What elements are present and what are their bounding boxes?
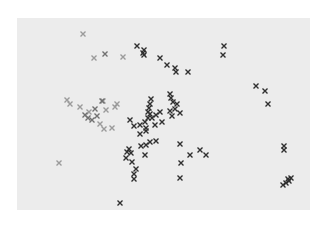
x-marker-icon xyxy=(185,69,191,75)
x-marker-icon xyxy=(159,119,165,125)
x-marker-icon xyxy=(281,147,287,153)
x-marker-icon xyxy=(157,55,163,61)
x-marker-icon xyxy=(91,55,97,61)
x-marker-icon xyxy=(137,131,143,137)
x-marker-icon xyxy=(253,83,259,89)
x-marker-icon xyxy=(131,176,137,182)
x-marker-icon xyxy=(157,109,163,115)
x-marker-icon xyxy=(177,110,183,116)
x-marker-icon xyxy=(143,142,149,148)
x-marker-icon xyxy=(187,152,193,158)
x-marker-icon xyxy=(56,160,62,166)
x-marker-icon xyxy=(80,31,86,37)
x-marker-icon xyxy=(285,176,291,182)
x-marker-icon xyxy=(103,107,109,113)
x-marker-icon xyxy=(169,113,175,119)
x-marker-icon xyxy=(109,125,115,131)
x-marker-icon xyxy=(153,138,159,144)
x-marker-icon xyxy=(220,52,226,58)
x-marker-icon xyxy=(137,122,143,128)
x-marker-icon xyxy=(127,117,133,123)
x-marker-icon xyxy=(120,54,126,60)
x-marker-icon xyxy=(129,159,135,165)
x-marker-icon xyxy=(265,101,271,107)
x-marker-icon xyxy=(114,101,120,107)
x-marker-icon xyxy=(117,200,123,206)
x-marker-icon xyxy=(262,88,268,94)
x-marker-icon xyxy=(203,152,209,158)
x-marker-icon xyxy=(102,51,108,57)
x-marker-icon xyxy=(94,113,100,119)
x-marker-icon xyxy=(141,52,147,58)
x-marker-icon xyxy=(221,43,227,49)
x-marker-icon xyxy=(164,62,170,68)
x-marker-icon xyxy=(142,152,148,158)
x-marker-icon xyxy=(143,128,149,134)
x-marker-icon xyxy=(177,175,183,181)
x-marker-icon xyxy=(101,126,107,132)
x-marker-icon xyxy=(99,98,105,104)
x-marker-icon xyxy=(177,141,183,147)
x-marker-icon xyxy=(77,104,83,110)
x-marker-icon xyxy=(173,69,179,75)
x-marker-icon xyxy=(92,106,98,112)
scatter-plot-area xyxy=(17,18,310,210)
x-marker-icon xyxy=(178,160,184,166)
x-marker-icon xyxy=(134,43,140,49)
x-marker-icon xyxy=(67,101,73,107)
x-marker-icon xyxy=(170,99,176,105)
x-marker-icon xyxy=(152,122,158,128)
